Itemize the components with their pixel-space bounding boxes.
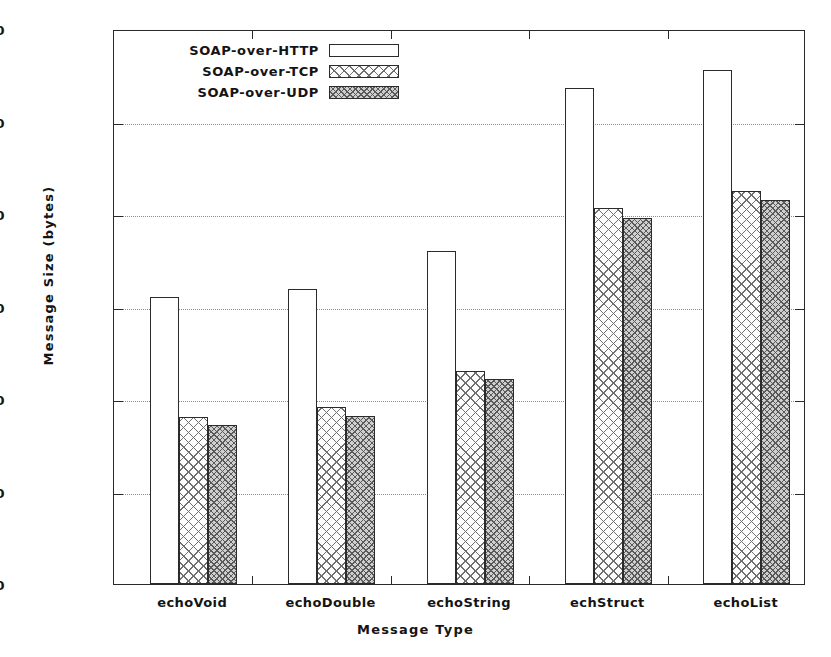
y-tick-mark: [795, 124, 804, 125]
x-tick-mark: [391, 576, 392, 584]
bar-echodouble-udp: [346, 416, 375, 584]
legend-item-http: SOAP-over-HTTP: [123, 40, 399, 60]
legend-swatch-udp: [329, 86, 399, 99]
x-tick-label-echodouble: echoDouble: [285, 595, 375, 610]
x-tick-mark: [668, 576, 669, 584]
y-tick-mark: [114, 401, 123, 402]
y-tick-label: 1200: [0, 23, 5, 38]
bar-echstruct-tcp: [594, 208, 623, 584]
bar-echolist-udp: [761, 200, 790, 584]
y-tick-label: 200: [0, 485, 5, 500]
bar-echolist-tcp: [732, 191, 761, 584]
bar-echodouble-http: [288, 289, 317, 584]
y-tick-mark: [795, 216, 804, 217]
x-tick-mark: [529, 31, 530, 39]
y-tick-label: 1000: [0, 115, 5, 130]
x-tick-mark: [252, 576, 253, 584]
bar-echstruct-udp: [623, 218, 652, 584]
legend-label: SOAP-over-UDP: [197, 85, 319, 100]
legend-item-tcp: SOAP-over-TCP: [123, 61, 399, 81]
y-tick-mark: [795, 401, 804, 402]
bar-echovoid-tcp: [179, 417, 208, 584]
legend-swatch-tcp: [329, 65, 399, 78]
bar-echovoid-udp: [208, 425, 237, 584]
x-axis-title: Message Type: [0, 622, 831, 637]
y-tick-mark: [795, 309, 804, 310]
gridline: [114, 309, 804, 310]
x-tick-label-echovoid: echoVoid: [157, 595, 227, 610]
x-tick-mark: [668, 31, 669, 39]
legend-label: SOAP-over-HTTP: [189, 43, 319, 58]
legend-item-udp: SOAP-over-UDP: [123, 82, 399, 102]
x-tick-label-echstruct: echStruct: [570, 595, 645, 610]
x-tick-label-echostring: echoString: [427, 595, 511, 610]
y-tick-mark: [114, 309, 123, 310]
y-tick-mark: [795, 494, 804, 495]
legend-label: SOAP-over-TCP: [202, 64, 319, 79]
y-tick-mark: [114, 216, 123, 217]
y-tick-mark: [114, 494, 123, 495]
y-tick-label: 600: [0, 300, 5, 315]
x-tick-mark: [529, 576, 530, 584]
x-tick-label-echolist: echoList: [713, 595, 778, 610]
bar-echolist-http: [703, 70, 732, 584]
bar-echostring-tcp: [456, 371, 485, 584]
bar-echostring-udp: [485, 379, 514, 584]
gridline: [114, 124, 804, 125]
bar-echostring-http: [427, 251, 456, 584]
gridline: [114, 216, 804, 217]
legend-swatch-http: [329, 44, 399, 57]
y-tick-label: 400: [0, 393, 5, 408]
chart-legend: SOAP-over-HTTPSOAP-over-TCPSOAP-over-UDP: [123, 36, 399, 105]
y-tick-mark: [114, 124, 123, 125]
bar-chart: SOAP-over-HTTPSOAP-over-TCPSOAP-over-UDP…: [0, 0, 831, 657]
bar-echodouble-tcp: [317, 407, 346, 584]
bar-echstruct-http: [565, 88, 594, 584]
y-tick-label: 800: [0, 208, 5, 223]
y-axis-title: Message Size (bytes): [41, 166, 56, 386]
y-tick-label: 0: [0, 578, 5, 593]
bar-echovoid-http: [150, 297, 179, 584]
plot-area: SOAP-over-HTTPSOAP-over-TCPSOAP-over-UDP: [113, 30, 805, 585]
